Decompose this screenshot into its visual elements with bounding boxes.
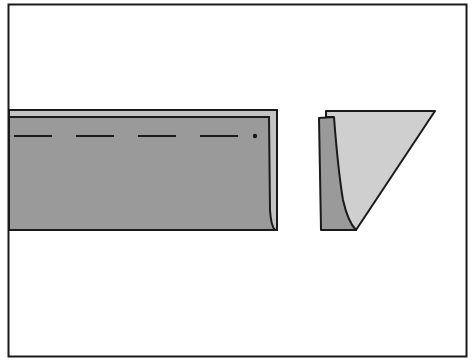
strip-front-layer — [9, 117, 275, 230]
folded-strip — [9, 110, 277, 230]
illustration — [0, 0, 474, 364]
stitch-end-dot — [253, 134, 257, 138]
figure-canvas — [0, 0, 474, 364]
